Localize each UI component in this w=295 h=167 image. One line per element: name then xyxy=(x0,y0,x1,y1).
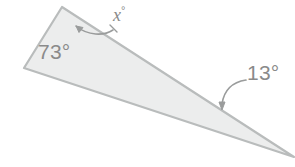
angle-x-variable: x xyxy=(113,5,121,25)
diagram-canvas: 73° x° 13° xyxy=(0,0,295,167)
angle-label-x: x° xyxy=(113,5,125,24)
angle-x-degree-sign: ° xyxy=(121,4,125,16)
thirteen-degree-arrow xyxy=(219,80,246,110)
angle-label-13: 13° xyxy=(247,62,279,83)
angle-label-73: 73° xyxy=(38,41,70,62)
